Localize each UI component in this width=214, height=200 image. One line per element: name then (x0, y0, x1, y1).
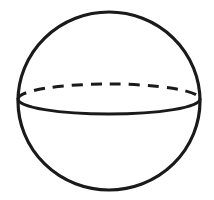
equator-front-solid-arc (18, 99, 200, 114)
equator-back-dashed-arc (18, 84, 200, 99)
sphere-outline-circle (18, 12, 200, 190)
sphere-drawing (0, 0, 214, 200)
sphere-figure-canvas (0, 0, 214, 200)
